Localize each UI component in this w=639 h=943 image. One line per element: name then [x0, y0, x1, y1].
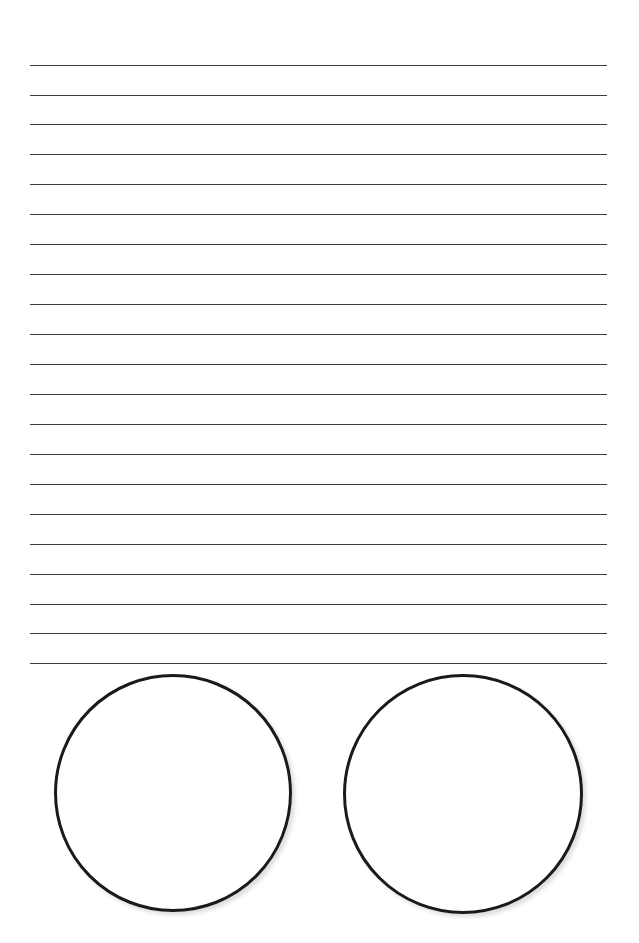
rule-line: [30, 214, 607, 215]
rule-line: [30, 95, 607, 96]
rule-line: [30, 633, 607, 634]
rule-line: [30, 154, 607, 155]
rule-line: [30, 604, 607, 605]
rule-line: [30, 334, 607, 335]
worksheet-page: [0, 0, 639, 943]
rule-line: [30, 274, 607, 275]
rule-line: [30, 514, 607, 515]
rule-line: [30, 124, 607, 125]
rule-line: [30, 454, 607, 455]
ruled-lines-section: [0, 0, 639, 672]
rule-line: [30, 574, 607, 575]
rule-line: [30, 424, 607, 425]
rule-line: [30, 484, 607, 485]
rule-line: [30, 364, 607, 365]
rule-line: [30, 65, 607, 66]
rule-line: [30, 244, 607, 245]
rule-line: [30, 544, 607, 545]
rule-line: [30, 394, 607, 395]
circles-section: [0, 665, 639, 943]
rule-line: [30, 184, 607, 185]
right-circle: [343, 674, 583, 914]
left-circle: [54, 674, 292, 912]
rule-line: [30, 304, 607, 305]
rule-line: [30, 663, 607, 664]
